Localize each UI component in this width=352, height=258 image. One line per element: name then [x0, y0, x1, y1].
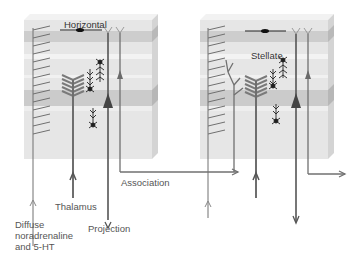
label-stellate: Stellate [251, 50, 283, 61]
label-association: Association [121, 177, 170, 188]
label-horizontal: Horizontal [64, 19, 107, 30]
right-cortex-block [200, 14, 334, 159]
label-diffuse-noradrenaline-5ht: Diffuse noradrenaline and 5-HT [15, 219, 73, 252]
label-thalamus: Thalamus [55, 201, 97, 212]
label-projection: Projection [88, 223, 130, 234]
